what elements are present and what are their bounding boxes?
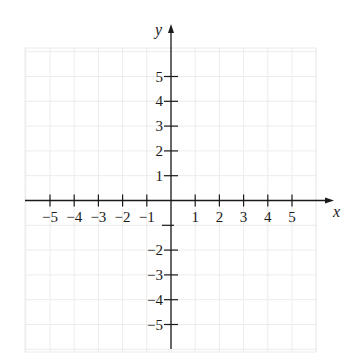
x-ticks: −5−4−3−2−112345	[42, 195, 296, 225]
y-tick-label: 4	[156, 93, 164, 109]
x-tick-label: −4	[66, 209, 82, 225]
y-tick-label: −4	[147, 292, 163, 308]
x-tick-label: −1	[139, 209, 155, 225]
axes	[25, 24, 334, 349]
x-axis-label: x	[332, 203, 340, 220]
y-tick-label: 3	[156, 118, 164, 134]
coordinate-plane: −5−4−3−2−112345 54321−2−3−4−5 x y	[0, 0, 347, 361]
x-tick-label: 1	[191, 209, 199, 225]
x-tick-label: 5	[288, 209, 296, 225]
x-tick-label: −5	[42, 209, 58, 225]
y-axis-label: y	[153, 21, 163, 39]
x-tick-label: −3	[90, 209, 106, 225]
y-axis-arrow-icon	[168, 24, 174, 33]
x-tick-label: 2	[216, 209, 224, 225]
x-tick-label: 4	[264, 209, 272, 225]
x-tick-label: 3	[240, 209, 248, 225]
y-tick-label: 5	[156, 69, 164, 85]
y-tick-label: −2	[147, 242, 163, 258]
x-tick-label: −2	[115, 209, 131, 225]
y-tick-label: −5	[147, 317, 163, 333]
y-tick-label: 1	[156, 168, 164, 184]
y-tick-label: −3	[147, 267, 163, 283]
y-tick-label: 2	[156, 143, 164, 159]
